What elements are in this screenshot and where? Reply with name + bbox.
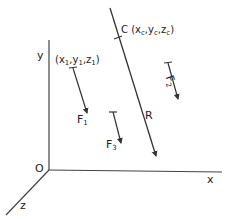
point-1-open: (x bbox=[55, 54, 65, 65]
force-f1-tick bbox=[69, 67, 77, 68]
force-f2-tick bbox=[164, 62, 172, 63]
origin-label: O bbox=[35, 163, 44, 174]
y-axis-label: y bbox=[37, 50, 44, 61]
point-c-open: (x bbox=[131, 24, 141, 35]
force-f1-vector bbox=[73, 68, 87, 113]
x-axis bbox=[49, 170, 222, 172]
force-f1-label: F1 bbox=[77, 114, 88, 127]
force-f3-label: F3 bbox=[106, 139, 117, 152]
point-1-close: ) bbox=[96, 54, 100, 65]
z-axis bbox=[6, 170, 49, 215]
resultant-r-label: R bbox=[145, 110, 153, 121]
force-f1-sub: 1 bbox=[83, 119, 87, 127]
point-c-name: C bbox=[121, 24, 128, 35]
point-c-mid-z: ,z bbox=[158, 24, 166, 35]
force-diagram-canvas bbox=[0, 0, 226, 219]
point-c-mid-y: ,y bbox=[145, 24, 154, 35]
x-axis-label: x bbox=[207, 174, 214, 185]
force-f3-sub: 3 bbox=[112, 144, 116, 152]
point-c-label: C (xc,yc,zc) bbox=[121, 25, 174, 37]
point-c-close: ) bbox=[170, 24, 174, 35]
point-1-label: (x1,y1,z1) bbox=[55, 55, 100, 67]
z-axis-label: z bbox=[20, 200, 26, 211]
